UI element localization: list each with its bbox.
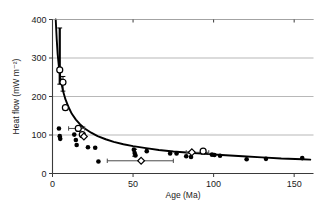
data-point-filled-0-7 <box>93 145 98 150</box>
data-point-open-circle-1-5 <box>200 148 206 154</box>
data-point-open-circle-1-0 <box>57 67 63 73</box>
chart-canvas: 0100200300400050100150Age (Ma)Heat flow … <box>0 0 328 203</box>
data-point-filled-0-22 <box>300 156 305 161</box>
data-point-open-circle-1-3 <box>75 125 81 131</box>
data-point-filled-0-19 <box>218 153 223 158</box>
data-point-filled-0-5 <box>74 143 79 148</box>
data-point-open-diamond-2-2 <box>188 149 195 156</box>
data-point-filled-0-14 <box>174 151 179 156</box>
data-point-filled-0-18 <box>212 153 217 158</box>
data-point-filled-0-3 <box>72 132 77 137</box>
y-tick-label-0: 0 <box>41 169 46 179</box>
data-point-filled-0-12 <box>144 149 149 154</box>
data-point-open-circle-1-1 <box>60 79 66 85</box>
y-tick-label-200: 200 <box>31 92 46 102</box>
data-point-filled-0-4 <box>74 138 79 143</box>
data-point-filled-0-8 <box>96 159 101 164</box>
y-axis-title: Heat flow (mW m⁻²) <box>11 58 21 134</box>
y-tick-label-400: 400 <box>31 15 46 25</box>
x-axis-title: Age (Ma) <box>166 190 201 200</box>
y-tick-label-100: 100 <box>31 130 46 140</box>
data-point-filled-0-21 <box>264 157 269 162</box>
x-tick-label-100: 100 <box>206 179 221 189</box>
heat-flow-vs-age-figure: 0100200300400050100150Age (Ma)Heat flow … <box>0 0 328 203</box>
y-tick-label-300: 300 <box>31 53 46 63</box>
data-point-open-circle-1-2 <box>62 105 68 111</box>
data-point-open-diamond-2-1 <box>138 157 145 164</box>
data-point-filled-0-20 <box>244 157 249 162</box>
data-point-filled-0-11 <box>133 153 138 158</box>
x-tick-label-0: 0 <box>50 179 55 189</box>
data-point-filled-0-2 <box>58 137 63 142</box>
data-point-filled-0-6 <box>86 145 91 150</box>
x-tick-label-50: 50 <box>128 179 138 189</box>
data-point-filled-0-15 <box>184 154 189 159</box>
fit-curve <box>56 20 311 160</box>
x-tick-label-150: 150 <box>287 179 302 189</box>
data-point-filled-0-13 <box>168 151 173 156</box>
data-point-filled-0-0 <box>57 126 62 131</box>
